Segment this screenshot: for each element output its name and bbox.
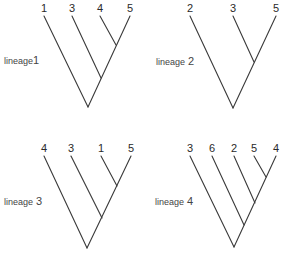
lineage-label-number: 3	[33, 195, 42, 207]
lineage-label-text: lineage	[155, 197, 184, 207]
branch-line	[234, 156, 255, 203]
tree-lines-canvas	[0, 0, 282, 253]
branch-line	[72, 16, 101, 78]
lineage-label: lineage 2	[156, 57, 194, 67]
tip-label: 5	[128, 143, 134, 154]
lineage-label: lineage 4	[155, 197, 193, 207]
tip-label: 3	[68, 143, 74, 154]
tip-label: 3	[69, 3, 75, 14]
lineage-label: lineage 3	[4, 197, 42, 207]
tip-label: 3	[187, 143, 193, 154]
branch-line	[233, 16, 254, 62]
lineage-label-number: 1	[33, 54, 39, 66]
branch-line	[190, 156, 234, 247]
branch-line	[190, 16, 233, 108]
lineage-label-text: lineage	[4, 197, 33, 207]
tip-label: 6	[209, 143, 215, 154]
lineage-1-tree	[44, 16, 130, 107]
lineage-label-number: 4	[184, 195, 193, 207]
branch-line	[44, 156, 87, 248]
branch-line	[71, 156, 102, 218]
lineage-2-tree	[190, 16, 276, 108]
tip-label: 2	[231, 143, 237, 154]
lineage-4-tree	[190, 156, 276, 247]
lineage-3-tree	[44, 156, 131, 248]
branch-line	[254, 156, 266, 177]
phylogenetic-trees-diagram: 1345lineage1235lineage 24315lineage 3362…	[0, 0, 282, 253]
tip-label: 2	[187, 3, 193, 14]
lineage-label-text: lineage	[4, 56, 33, 66]
tip-label: 4	[97, 3, 103, 14]
tip-label: 1	[41, 3, 47, 14]
lineage-label-number: 2	[185, 55, 194, 67]
lineage-label: lineage1	[4, 56, 39, 66]
lineage-label-text: lineage	[156, 57, 185, 67]
branch-line	[44, 16, 88, 107]
tip-label: 1	[98, 143, 104, 154]
tip-label: 5	[127, 3, 133, 14]
tip-label: 4	[41, 143, 47, 154]
tip-label: 3	[230, 3, 236, 14]
branch-line	[100, 16, 116, 45]
tip-label: 5	[251, 143, 257, 154]
branch-line	[88, 16, 130, 107]
tip-label: 5	[273, 3, 279, 14]
tip-label: 4	[273, 143, 279, 154]
branch-line	[101, 156, 117, 186]
